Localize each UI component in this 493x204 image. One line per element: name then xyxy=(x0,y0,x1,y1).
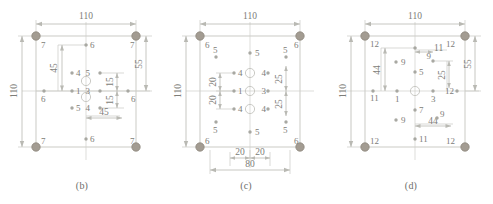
dim-label-inner-left-vertical-d: 44 xyxy=(372,65,382,75)
point-label-b-c-right-up: 5 xyxy=(86,68,91,78)
dimension-inner-right-vertical-d: 25 xyxy=(437,61,451,88)
panel-d-drawing: 110 110 55 xyxy=(329,0,493,180)
dim-label-left-height-b: 110 xyxy=(9,84,19,98)
point-label-d-left-center: 11 xyxy=(370,93,379,103)
dim-label-bottom-left-span-c: 20 xyxy=(235,147,245,157)
dimension-right-lower-c: 25 xyxy=(274,91,288,116)
point-label-d-c-right: 3 xyxy=(431,94,436,104)
point-label-b-mr-out: 6 xyxy=(131,94,136,104)
dim-label-top-width-b: 110 xyxy=(79,11,93,21)
point-label-c-right-up: 5 xyxy=(283,45,288,55)
panel-caption-d: (d) xyxy=(329,180,493,191)
point-label-b-c-left-mid: 1 xyxy=(76,86,81,96)
dimension-inner-horizontal-b: 45 xyxy=(86,107,122,120)
point-label-c-right-dn: 5 xyxy=(283,125,288,135)
point-label-c-bottom-center: 5 xyxy=(255,127,260,137)
point-label-c-ci-rd: 4 xyxy=(262,104,267,114)
point-label-d-c-up: 5 xyxy=(419,67,424,77)
point-label-c-left-dn: 5 xyxy=(213,125,218,135)
dim-label-stack-upper-b: 15 xyxy=(105,77,115,87)
dim-label-top-width-d: 110 xyxy=(408,11,422,21)
point-label-c-ci-ru: 4 xyxy=(262,68,267,78)
point-label-d-bl: 12 xyxy=(370,136,379,146)
dim-label-bottom-total-c: 80 xyxy=(245,159,255,169)
figure-canvas: 110 110 55 xyxy=(0,0,493,204)
dim-label-inner-upper-c: 20 xyxy=(208,77,218,87)
point-labels-b: 7 6 7 6 6 7 6 7 4 1 5 5 3 4 xyxy=(41,40,136,146)
dimension-right-offset-d: 55 xyxy=(463,36,481,91)
dim-label-right-offset-b: 55 xyxy=(134,59,144,69)
dim-label-right-lower-c: 25 xyxy=(274,99,284,109)
point-label-d-q-tl: 9 xyxy=(401,57,406,67)
dimension-left-height-c: 110 xyxy=(173,36,204,147)
point-label-d-bottom-center: 11 xyxy=(419,134,428,144)
dimension-inner-lower-c: 20 xyxy=(208,91,222,109)
point-label-c-ci-ld: 4 xyxy=(238,104,243,114)
point-label-c-bl: 6 xyxy=(205,136,210,146)
point-label-d-c-left: 1 xyxy=(395,94,400,104)
panel-caption-c: (c) xyxy=(164,180,328,191)
point-label-c-tl: 6 xyxy=(205,40,210,50)
point-label-d-q-bl: 9 xyxy=(401,115,406,125)
point-label-c-left-up: 5 xyxy=(213,45,218,55)
dimension-inner-bottom-horizontal-d: 44 xyxy=(415,116,451,128)
point-label-b-tc: 6 xyxy=(90,40,95,50)
dimension-right-upper-c: 25 xyxy=(274,66,288,91)
dimension-bottom-right-span-c: 20 xyxy=(250,147,270,160)
point-label-d-c-dn: 7 xyxy=(419,105,424,115)
point-label-c-tr: 6 xyxy=(294,40,299,50)
point-label-d-br: 12 xyxy=(446,136,455,146)
dimension-bottom-left-span-c: 20 xyxy=(230,147,250,160)
point-label-b-tl: 7 xyxy=(41,40,46,50)
dim-label-left-height-d: 110 xyxy=(338,84,348,98)
panel-c-drawing: 110 110 20 20 xyxy=(164,0,328,180)
dimension-left-height-d: 110 xyxy=(338,36,369,147)
point-label-c-ci-lu: 4 xyxy=(238,68,243,78)
point-label-b-c-left-dn: 5 xyxy=(76,103,81,113)
dimension-right-offset-b: 55 xyxy=(134,36,152,91)
panel-b-drawing: 110 110 55 xyxy=(0,0,164,180)
dimension-left-height-b: 110 xyxy=(9,36,40,147)
panel-b: 110 110 55 xyxy=(0,0,164,204)
point-label-c-br: 6 xyxy=(294,136,299,146)
dimension-stack-lower-b: 15 xyxy=(105,91,119,108)
point-label-b-bl: 7 xyxy=(41,136,46,146)
dim-label-bottom-right-span-c: 20 xyxy=(255,147,265,157)
dimension-inner-vertical-b: 45 xyxy=(49,45,64,91)
dim-label-inner-vertical-b: 45 xyxy=(49,63,59,73)
point-label-b-ml-out: 6 xyxy=(41,94,46,104)
point-label-d-tr: 12 xyxy=(446,39,455,49)
dim-label-inner-right-vertical-d: 25 xyxy=(437,70,447,80)
point-label-b-c-right-dn: 4 xyxy=(86,103,91,113)
point-labels-d: 12 12 12 12 12 11 11 9 9 9 9 5 7 1 3 xyxy=(370,39,455,146)
dimension-inner-upper-c: 20 xyxy=(208,73,222,91)
point-label-b-bc: 6 xyxy=(90,134,95,144)
dim-label-top-width-c: 110 xyxy=(243,11,257,21)
dimension-inner-left-vertical-d: 44 xyxy=(372,48,387,91)
hole-markers-c xyxy=(214,51,287,133)
panel-c: 110 110 20 20 xyxy=(164,0,328,204)
dim-label-inner-top-horizontal-d: 11 xyxy=(434,43,443,53)
dimension-stack-upper-b: 15 xyxy=(105,73,119,91)
point-label-c-ci-rm: 3 xyxy=(262,86,267,96)
panel-d: 110 110 55 xyxy=(329,0,493,204)
point-label-d-q-br: 9 xyxy=(440,109,445,119)
point-label-b-tr: 7 xyxy=(130,40,135,50)
dim-label-right-upper-c: 25 xyxy=(274,74,284,84)
point-label-d-right-center: 12 xyxy=(445,86,454,96)
point-label-d-tl: 12 xyxy=(370,39,379,49)
dim-label-left-height-c: 110 xyxy=(173,84,183,98)
point-label-b-c-right-mid: 3 xyxy=(86,86,91,96)
point-label-b-br: 7 xyxy=(130,136,135,146)
point-label-c-ci-lm: 1 xyxy=(238,86,243,96)
dim-label-stack-lower-b: 15 xyxy=(105,95,115,105)
dim-label-inner-lower-c: 20 xyxy=(208,95,218,105)
point-label-d-q-tr: 9 xyxy=(427,51,432,61)
panel-caption-b: (b) xyxy=(0,180,164,191)
point-label-b-c-left-up: 4 xyxy=(76,68,81,78)
dim-label-right-offset-d: 55 xyxy=(463,59,473,69)
point-label-c-top-center: 5 xyxy=(255,48,260,58)
